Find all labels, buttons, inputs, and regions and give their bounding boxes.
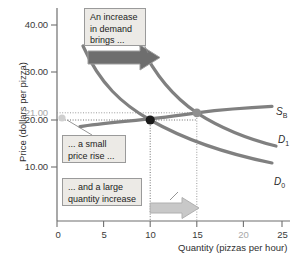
economics-supply-demand-chart: 40.00 30.00 21.00 20.00 10.00 0 5 10 15 …: [0, 0, 296, 257]
y-axis-title-wrapper: Price (dollars per pizza): [12, 47, 30, 177]
curve-label-d1: D1: [278, 134, 289, 147]
price-rise-callout: ... a small price rise ...: [62, 135, 126, 163]
quantity-increase-callout: ... and a large quantity increase: [62, 178, 142, 206]
xtick-label-25: 25: [273, 229, 292, 240]
xtick-label-5: 5: [97, 229, 111, 240]
supply-curve-sb: [80, 106, 272, 126]
xtick-label-10: 10: [141, 229, 160, 240]
quantity-change-arrow: [150, 198, 199, 219]
xtick-label-0: 0: [51, 229, 65, 240]
ytick-label-40: 40.00: [6, 19, 48, 30]
new-equilibrium-dot: [192, 108, 201, 117]
chart-plot-area: [0, 0, 296, 257]
curve-label-d0: D0: [274, 176, 285, 189]
curve-label-d1-sub: 1: [285, 140, 289, 147]
price-axis-marker: [58, 114, 65, 121]
xtick-label-20: 20: [234, 229, 253, 240]
demand-increase-callout: An increase in demand brings ...: [84, 8, 146, 46]
demand-shift-arrow: [88, 45, 160, 70]
curve-label-sb-main: S: [276, 106, 283, 117]
xtick-label-15: 15: [188, 229, 207, 240]
y-axis-title: Price (dollars per pizza): [17, 62, 28, 162]
curve-label-sb: SB: [276, 106, 287, 119]
demand-curve-d1: [141, 46, 276, 146]
curve-label-sb-sub: B: [283, 112, 288, 119]
x-axis-title: Quantity (pizzas per hour): [178, 242, 287, 253]
curve-label-d0-sub: 0: [281, 182, 285, 189]
initial-equilibrium-dot: [146, 115, 155, 124]
x-axis-ticks: [57, 221, 282, 227]
y-axis-ticks: [51, 25, 57, 167]
